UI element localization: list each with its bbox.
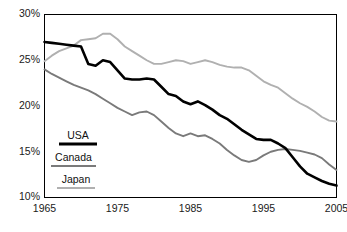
chart-legend: USACanadaJapan bbox=[51, 129, 97, 188]
legend-item-usa: USA bbox=[59, 129, 97, 144]
y-tick-label: 20% bbox=[19, 99, 40, 111]
x-tick-label: 1965 bbox=[33, 202, 57, 214]
series-line-japan bbox=[45, 34, 337, 122]
legend-label: USA bbox=[67, 129, 89, 141]
legend-label: Canada bbox=[55, 151, 92, 163]
x-tick-label: 1975 bbox=[106, 202, 130, 214]
plot-frame bbox=[45, 15, 337, 198]
y-tick-label: 10% bbox=[19, 190, 40, 202]
y-tick-label: 15% bbox=[19, 145, 40, 157]
legend-label: Japan bbox=[62, 173, 91, 185]
x-axis-tick-labels: 19651975198519952005 bbox=[33, 202, 347, 214]
y-tick-label: 25% bbox=[19, 53, 40, 65]
x-tick-label: 1995 bbox=[252, 202, 276, 214]
x-tick-label: 1985 bbox=[179, 202, 203, 214]
y-tick-label: 30% bbox=[19, 7, 40, 19]
y-axis-tick-labels: 10%15%20%25%30% bbox=[19, 7, 40, 202]
chart-canvas: 10%15%20%25%30% 19651975198519952005 USA… bbox=[0, 0, 347, 232]
line-chart: 10%15%20%25%30% 19651975198519952005 USA… bbox=[0, 0, 347, 232]
x-tick-label: 2005 bbox=[325, 202, 347, 214]
legend-item-japan: Japan bbox=[57, 173, 95, 188]
legend-item-canada: Canada bbox=[51, 151, 96, 166]
